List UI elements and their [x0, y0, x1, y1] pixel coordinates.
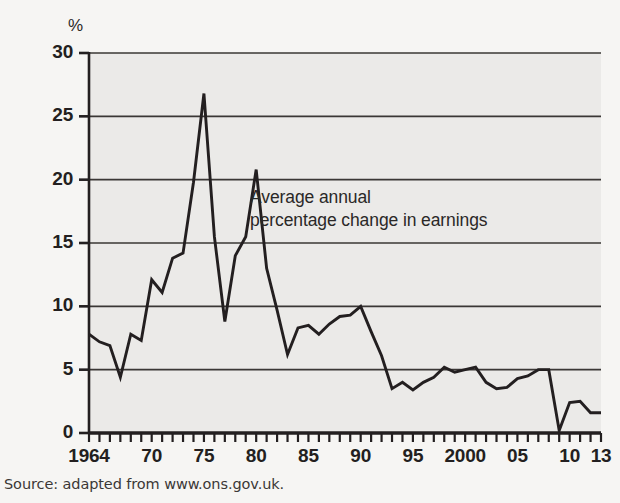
y-tick-label-25: 25 — [29, 104, 73, 126]
y-tick-label-5: 5 — [29, 358, 73, 380]
line-chart-canvas — [0, 0, 620, 503]
annotation-line-2: percentage change in earnings — [250, 209, 487, 232]
y-tick-label-10: 10 — [29, 294, 73, 316]
annotation-line-1: Average annual — [250, 186, 487, 209]
source-note: Source: adapted from www.ons.gov.uk. — [4, 476, 284, 492]
y-tick-label-0: 0 — [29, 421, 73, 443]
earnings-change-figure: % Average annual percentage change in ea… — [0, 0, 620, 503]
y-tick-label-15: 15 — [29, 231, 73, 253]
series-annotation: Average annual percentage change in earn… — [250, 186, 487, 233]
y-tick-label-30: 30 — [29, 41, 73, 63]
y-axis-ticks — [79, 53, 89, 433]
y-axis-unit-label: % — [68, 16, 83, 36]
y-tick-label-20: 20 — [29, 168, 73, 190]
x-tick-label-13: 13 — [561, 445, 620, 467]
